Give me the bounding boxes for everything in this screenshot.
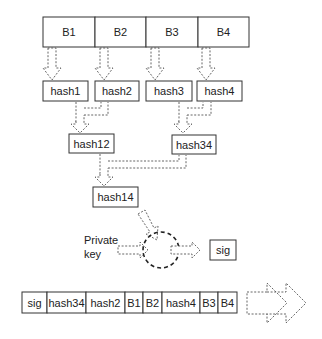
packet-cell-label: sig [27,297,41,309]
down-arrow-icon [95,48,113,80]
block-row: B1 B2 B3 B4 [43,17,249,47]
leaf-to-mid-arrows [71,102,211,133]
packet-cell-label: B3 [202,297,215,309]
packet-row: sig hash34 hash2 B1 B2 hash4 B3 B4 [22,292,237,313]
block-b2-label: B2 [114,26,127,38]
right-arrow-icon [171,242,200,258]
leaf-hash-row: hash1 hash2 hash3 hash4 [43,81,242,101]
packet-cell-label: hash34 [48,297,84,309]
hash14-label: hash14 [97,191,133,203]
hash1-label: hash1 [51,85,81,97]
down-arrow-icon [71,115,89,133]
block-b1-label: B1 [62,26,75,38]
down-arrow-icon [174,115,192,133]
packet-cell-label: hash4 [166,297,196,309]
packet-cell-label: B1 [127,297,140,309]
block-b4-label: B4 [217,26,230,38]
hash34-label: hash34 [176,139,212,151]
hash2-label: hash2 [102,85,132,97]
mid-to-root-arrows [95,154,186,186]
hash12-label: hash12 [73,138,109,150]
mid-hash-row: hash12 hash34 [69,134,216,154]
down-arrow-icon [95,168,113,186]
down-arrow-icon [43,48,61,80]
sig-label: sig [216,244,230,256]
block-b3-label: B3 [165,26,178,38]
private-key-label-line2: key [84,248,102,260]
block-to-hash-arrows [43,48,215,80]
hash4-label: hash4 [205,85,235,97]
down-arrow-icon [146,48,164,80]
private-key-label-line1: Private [84,234,118,246]
packet-cell-label: B4 [221,297,234,309]
packet-cell-label: hash2 [91,297,121,309]
transmit-arrow-icon [247,283,306,323]
diagonal-arrow-icon [138,210,158,240]
packet-cell-label: B2 [146,297,159,309]
down-arrow-icon [197,48,215,80]
hash3-label: hash3 [154,85,184,97]
merkle-signature-diagram: B1 B2 B3 B4 hash1 hash2 hash3 hash4 [0,0,322,339]
